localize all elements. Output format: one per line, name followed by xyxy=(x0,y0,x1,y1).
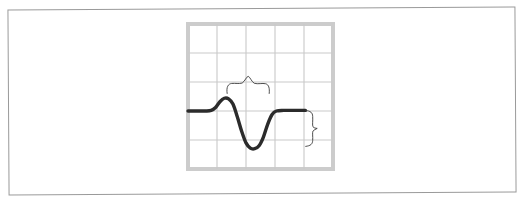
waveform-figure xyxy=(186,22,352,182)
figure-page: Oscilloscope style grid with a biphasic … xyxy=(0,0,527,204)
grid-frame xyxy=(188,24,333,169)
waveform-svg xyxy=(186,22,352,182)
